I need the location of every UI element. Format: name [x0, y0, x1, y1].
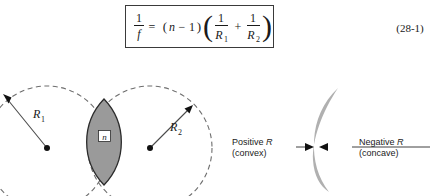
negative-r-sublabel: (concave)	[359, 148, 399, 158]
positive-r-sublabel: (convex)	[232, 148, 267, 158]
equation-term1-numerator: 1	[218, 11, 224, 25]
positive-r-label: Positive R	[232, 137, 273, 147]
left-circle-center-dot	[44, 145, 50, 151]
radius2-label: R	[169, 120, 178, 134]
negative-r-label-symbol: R	[397, 137, 404, 147]
equation-equals-sign: =	[149, 20, 156, 34]
equation-lhs-numerator: 1	[136, 11, 142, 25]
equation-factor-n: n	[169, 20, 175, 34]
index-of-refraction-marker: n	[99, 131, 111, 142]
index-label: n	[102, 132, 107, 142]
radius1-subscript: 1	[41, 115, 45, 124]
equation-number: (28-1)	[396, 22, 424, 35]
equation-factor-close-paren: )	[197, 19, 201, 34]
equation-factor-open-paren: (	[163, 19, 167, 34]
right-circle-center-dot	[147, 145, 153, 151]
lens-maker-equation-figure: 1 f = ( n − 1 ) ( 1 R 1 + 1 R 2 ) (28-1)	[0, 0, 436, 196]
equation-term1-denominator: R	[214, 28, 223, 42]
radius1-label: R	[32, 107, 41, 121]
radius2-subscript: 2	[178, 128, 182, 137]
equation-group-close-paren: )	[262, 9, 272, 43]
negative-r-label-prefix: Negative	[359, 137, 397, 147]
equation-term2-numerator: 1	[250, 11, 256, 25]
positive-r-label-prefix: Positive	[232, 137, 266, 147]
equation-plus-sign: +	[235, 20, 242, 34]
equation-factor-one: 1	[189, 20, 195, 34]
equation-factor-minus: −	[179, 20, 186, 34]
equation-term2-subscript: 2	[256, 35, 260, 44]
positive-r-label-symbol: R	[266, 137, 273, 147]
equation-term2-denominator: R	[246, 28, 255, 42]
equation-term1-subscript: 1	[224, 35, 228, 44]
negative-r-label: Negative R	[359, 137, 404, 147]
equation-group-open-paren: (	[203, 9, 213, 43]
